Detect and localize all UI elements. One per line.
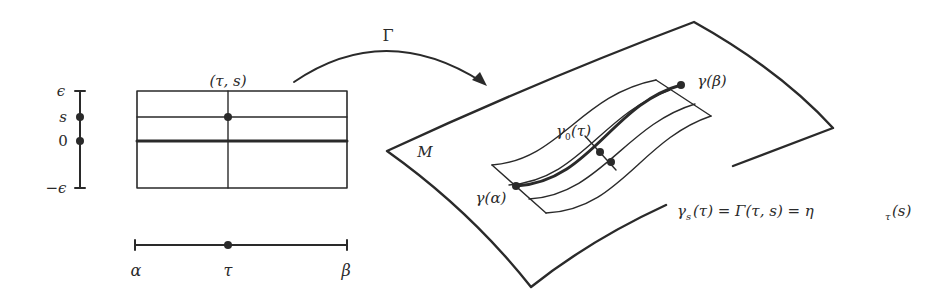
- gamma0-tau-label: γ 0 (τ): [556, 122, 591, 142]
- gamma0-tau-point: [596, 148, 604, 156]
- zero-label: 0: [58, 132, 68, 150]
- zero-point: [76, 137, 84, 145]
- epsilon-label: ϵ: [57, 82, 66, 100]
- gamma-alpha-point: [512, 182, 520, 190]
- variation-formula: γ s (τ) = Γ(τ, s) = η τ (s): [677, 202, 912, 222]
- points: [76, 81, 685, 249]
- svg-text:γ: γ: [556, 122, 565, 140]
- svg-text:(τ) = Γ(τ, s) = η: (τ) = Γ(τ, s) = η: [693, 202, 814, 220]
- tau-s-label: (τ, s): [209, 72, 246, 90]
- svg-text:(τ): (τ): [571, 122, 591, 140]
- tau-label: τ: [224, 261, 234, 280]
- curve-gamma-0: [516, 85, 681, 186]
- svg-text:γ: γ: [677, 202, 686, 220]
- beta-label: β: [340, 261, 350, 280]
- gamma-beta-label: γ(β): [697, 72, 726, 90]
- gamma-map-arrow: [294, 51, 482, 82]
- gamma-alpha-label: γ(α): [476, 189, 507, 207]
- gamma-s-tau-point: [607, 158, 615, 166]
- gamma-map-label: Γ: [382, 26, 393, 45]
- alpha-label: α: [131, 261, 142, 280]
- tau-s-point: [224, 113, 232, 121]
- svg-text:(s): (s): [892, 202, 912, 220]
- manifold-label: M: [416, 143, 433, 161]
- s-label: s: [59, 108, 67, 126]
- tau-axis: [135, 240, 347, 250]
- svg-text:τ: τ: [885, 211, 891, 222]
- variation-diagram: ϵ s 0 −ϵ (τ, s) α τ β Γ M γ(α) γ(β) γ 0 …: [0, 0, 943, 308]
- neg-epsilon-label: −ϵ: [46, 179, 68, 197]
- svg-text:s: s: [686, 211, 691, 222]
- tau-point: [224, 241, 232, 249]
- manifold-surface: [387, 22, 833, 287]
- variation-strip: [492, 80, 711, 213]
- parameter-rectangle: [137, 91, 347, 188]
- arrowhead-icon: [472, 72, 487, 86]
- s-point: [76, 113, 84, 121]
- gamma-beta-point: [677, 81, 685, 89]
